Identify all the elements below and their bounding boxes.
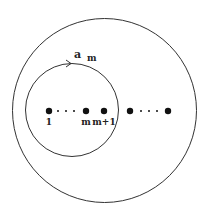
point-labels: 1mm+1 xyxy=(46,117,116,127)
puncture-point xyxy=(127,108,133,114)
ellipsis-dot xyxy=(148,110,150,112)
loop-label-main: a xyxy=(74,48,81,61)
ellipsis-dot xyxy=(57,110,59,112)
puncture-point xyxy=(101,108,107,114)
point-label: m+1 xyxy=(92,117,115,127)
loop-label-subscript: m xyxy=(87,53,97,63)
puncture-point xyxy=(165,108,171,114)
ellipsis-dot xyxy=(73,110,75,112)
puncture-points xyxy=(46,108,171,114)
ellipsis-dot xyxy=(140,110,142,112)
ellipsis-dot xyxy=(65,110,67,112)
point-label: m xyxy=(81,117,91,127)
diagram-canvas: a m 1mm+1 xyxy=(0,0,204,217)
ellipsis-dot xyxy=(156,110,158,112)
point-label: 1 xyxy=(46,117,52,127)
loop-label: a m xyxy=(74,48,97,63)
puncture-point xyxy=(83,108,89,114)
puncture-point xyxy=(46,108,52,114)
